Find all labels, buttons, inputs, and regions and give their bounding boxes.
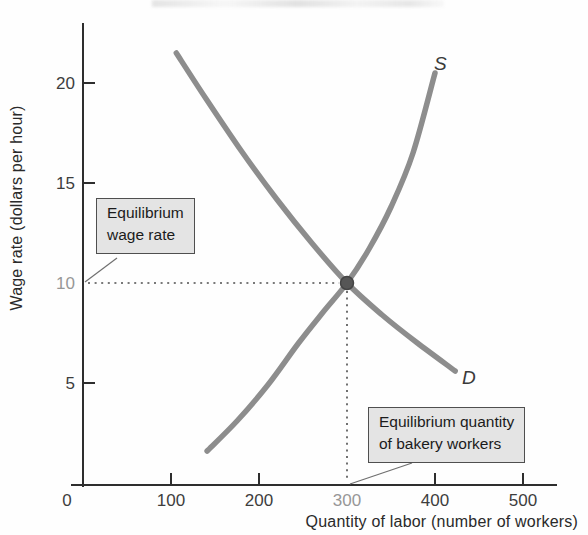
equilibrium-quantity-callout: Equilibrium quantity of bakery workers xyxy=(368,407,525,463)
supply-curve xyxy=(207,73,435,451)
x-tick-label: 100 xyxy=(157,491,185,510)
figure-canvas: 51015200100200300400500 Wage rate (dolla… xyxy=(0,0,588,535)
y-tick-label: 5 xyxy=(66,374,75,393)
x-tick-label: 0 xyxy=(62,491,71,510)
y-tick-label: 20 xyxy=(56,74,75,93)
x-tick-label: 200 xyxy=(245,491,273,510)
callout-leader-line xyxy=(350,463,412,484)
callout-text-line: of bakery workers xyxy=(379,433,514,455)
equilibrium-wage-callout: Equilibrium wage rate xyxy=(96,198,195,254)
callout-text-line: Equilibrium xyxy=(107,202,184,224)
y-axis-title: Wage rate (dollars per hour) xyxy=(8,105,25,310)
y-tick-label: 10 xyxy=(56,274,75,293)
x-tick-label: 400 xyxy=(421,491,449,510)
demand-curve-label: D xyxy=(462,367,476,388)
callout-text-line: wage rate xyxy=(107,224,184,246)
y-tick-label: 15 xyxy=(56,174,75,193)
callout-leader-line xyxy=(85,258,117,282)
supply-curve-label: S xyxy=(434,53,447,74)
callout-text-line: Equilibrium quantity xyxy=(379,411,514,433)
x-tick-label: 500 xyxy=(509,491,537,510)
x-axis-title: Quantity of labor (number of workers) xyxy=(306,513,578,530)
equilibrium-point xyxy=(341,277,354,290)
x-tick-label: 300 xyxy=(333,491,361,510)
